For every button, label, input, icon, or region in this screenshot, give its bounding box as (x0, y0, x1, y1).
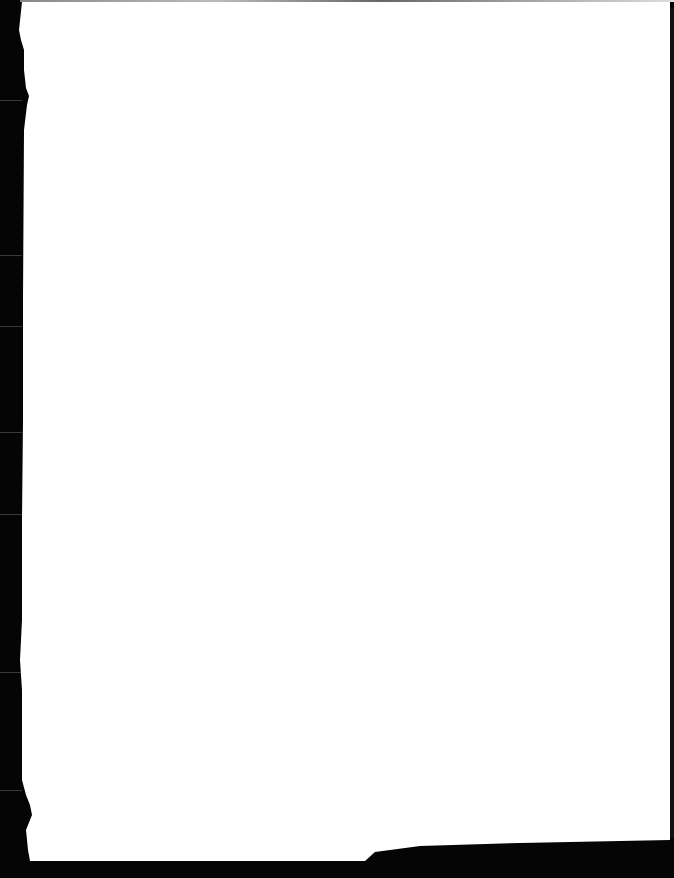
scan-top-edge (20, 0, 674, 2)
page-content (60, 60, 620, 800)
scan-right-edge (670, 8, 674, 838)
